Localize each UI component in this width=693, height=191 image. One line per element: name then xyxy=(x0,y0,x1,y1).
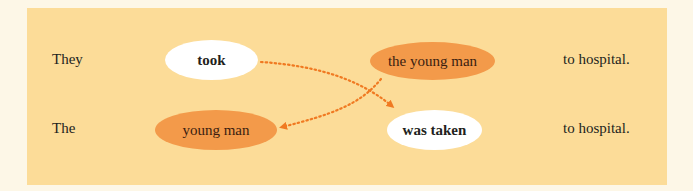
arrows-layer xyxy=(0,0,693,191)
arrow-the-young-man-to-young-man xyxy=(282,79,381,127)
arrow-took-to-was-taken xyxy=(261,62,392,106)
